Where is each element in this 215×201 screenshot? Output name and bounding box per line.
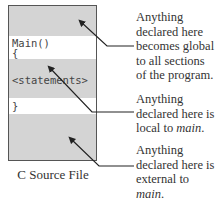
note-line: main.	[136, 187, 214, 201]
note-line: to all sections	[136, 54, 214, 69]
note-text: local to	[136, 121, 176, 135]
global-arrow	[81, 22, 134, 46]
note-line: external to	[136, 172, 214, 187]
external-annotation: Anything declared here is external to ma…	[136, 143, 214, 200]
note-line: declared here	[136, 25, 214, 40]
global-annotation: Anything declared here becomes global to…	[136, 10, 214, 83]
local-annotation: Anything declared here is local to main.	[136, 92, 214, 136]
note-line: of the program.	[136, 68, 214, 83]
note-line: Anything	[136, 10, 214, 25]
note-line: declared here is	[136, 158, 214, 173]
note-line: becomes global	[136, 39, 214, 54]
local-arrow	[50, 68, 134, 112]
note-emphasis: main	[136, 187, 161, 201]
note-line: Anything	[136, 92, 214, 107]
external-arrow	[71, 139, 134, 166]
note-line: local to main.	[136, 121, 214, 136]
note-line: Anything	[136, 143, 214, 158]
note-line: declared here is	[136, 107, 214, 122]
note-suffix: .	[201, 121, 204, 135]
note-emphasis: main	[176, 121, 201, 135]
note-suffix: .	[161, 187, 164, 201]
